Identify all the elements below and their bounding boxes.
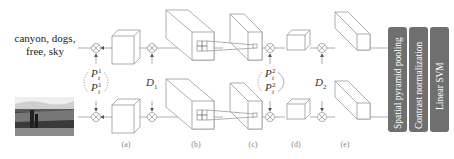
svg-text:D: D [314, 76, 323, 88]
input-photo [15, 97, 74, 136]
swap-arrow-1-right [104, 72, 108, 92]
caption-b: (b) [191, 140, 201, 149]
swap-arrow-2 [278, 72, 284, 92]
label-d2: D 2 [314, 76, 327, 91]
svg-text:i: i [98, 88, 100, 96]
tags-line-2: free, sky [26, 45, 64, 57]
svg-text:D: D [145, 76, 154, 88]
caption-d: (d) [291, 140, 301, 149]
box-e-top [335, 12, 370, 50]
stage-captions: (a) (b) (c) (d) (e) [122, 140, 350, 149]
svg-text:P: P [90, 81, 98, 93]
cube-d-bottom [287, 99, 310, 119]
node-d-bottom [318, 113, 327, 122]
swap-arrow-1-left [84, 72, 88, 92]
swap-arrow-2-left [258, 72, 262, 92]
node-d-top [318, 44, 327, 53]
label-p2: P 2 t P 2 i [264, 67, 276, 96]
node-a-bottom [92, 113, 101, 122]
pipeline-bar-svm: Linear SVM [430, 27, 449, 132]
svg-text:Contrast normalization: Contrast normalization [414, 41, 424, 129]
cube-a-bottom [112, 99, 140, 133]
box-c-top [207, 14, 262, 60]
svg-text:2: 2 [323, 83, 327, 91]
box-b-bottom [166, 79, 214, 129]
node-a-top [92, 44, 101, 53]
pipeline-bar-contrast: Contrast normalization [409, 27, 428, 132]
svg-text:1: 1 [154, 83, 158, 91]
caption-e: (e) [341, 140, 350, 149]
svg-text:Linear SVM: Linear SVM [435, 62, 445, 110]
tags-line-1: canyon, dogs, [15, 32, 76, 44]
svg-text:P: P [90, 67, 98, 79]
box-e-bottom [335, 81, 370, 119]
svg-text:P: P [264, 67, 272, 79]
label-p1: P 1 t P 1 i [90, 67, 102, 96]
cube-a-top [112, 30, 140, 64]
svg-text:Spatial pyramid pooling: Spatial pyramid pooling [393, 37, 403, 129]
svg-text:i: i [272, 88, 274, 96]
pipeline-bar-spp: Spatial pyramid pooling [388, 27, 407, 132]
svg-text:P: P [264, 81, 272, 93]
box-b-top [166, 10, 214, 60]
node-c-top [266, 44, 275, 53]
architecture-diagram: canyon, dogs, free, sky [0, 0, 454, 159]
node-b-bottom [148, 113, 157, 122]
caption-a: (a) [122, 140, 131, 149]
text-tags: canyon, dogs, free, sky [15, 32, 76, 57]
node-c-bottom [266, 113, 275, 122]
node-b-top [148, 44, 157, 53]
cube-d-top [287, 30, 310, 50]
box-c-bottom [207, 83, 262, 129]
label-d1: D 1 [145, 76, 158, 91]
caption-c: (c) [249, 140, 258, 149]
